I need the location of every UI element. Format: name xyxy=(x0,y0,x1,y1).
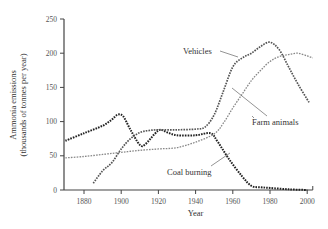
y-tick-label: 50 xyxy=(50,151,58,160)
farm-animals-line xyxy=(65,53,312,158)
x-tick-label: 2000 xyxy=(300,197,315,206)
vehicles-line xyxy=(93,42,309,183)
y-tick-label: 200 xyxy=(46,49,58,58)
ammonia-emissions-chart: 0501001502002501880190019201940196019802… xyxy=(0,0,328,229)
y-axis-title: Ammonia emissions(thousands of tonnes pe… xyxy=(8,53,28,156)
y-tick-label: 250 xyxy=(46,15,58,24)
x-tick-label: 1980 xyxy=(263,197,278,206)
x-tick-label: 1900 xyxy=(114,197,129,206)
x-axis-title: Year xyxy=(188,208,204,218)
farm-animals-label: Farm animals xyxy=(252,117,299,127)
coal-burning-label: Coal burning xyxy=(167,167,212,177)
y-tick-label: 100 xyxy=(46,117,58,126)
x-tick-label: 1880 xyxy=(77,197,92,206)
y-tick-label: 0 xyxy=(53,186,57,195)
y-tick-label: 150 xyxy=(46,83,58,92)
x-tick-label: 1940 xyxy=(188,197,203,206)
x-tick-label: 1960 xyxy=(225,197,240,206)
x-tick-label: 1920 xyxy=(151,197,166,206)
vehicles-label: Vehicles xyxy=(183,46,212,56)
